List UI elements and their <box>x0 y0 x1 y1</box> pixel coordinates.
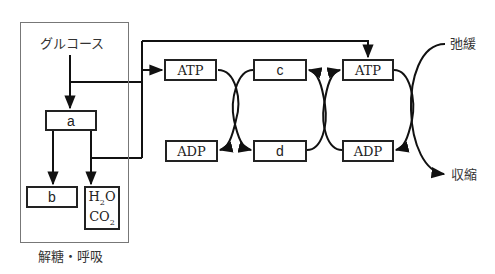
node-h2o-co2: H2O CO2 <box>84 186 120 230</box>
glucose-label: グルコース <box>40 37 104 50</box>
arrow-to-atp2 <box>142 41 368 57</box>
node-b: b <box>26 186 78 208</box>
node-adp-1: ADP <box>165 140 218 162</box>
node-a: a <box>45 110 97 131</box>
node-atp-1: ATP <box>164 59 217 81</box>
h2o-label: H2O <box>88 188 115 208</box>
curve-atp1-to-adp1 <box>218 70 238 150</box>
curve-relax-to-contract <box>411 44 445 174</box>
node-adp-2: ADP <box>342 140 394 162</box>
glycolysis-respiration-label: 解糖・呼吸 <box>38 250 103 263</box>
relax-label: 弛緩 <box>450 37 476 50</box>
contract-label: 収縮 <box>451 168 477 181</box>
node-c: c <box>253 59 307 81</box>
node-d: d <box>253 140 307 162</box>
node-atp-2: ATP <box>342 59 394 81</box>
co2-label: CO2 <box>89 208 115 228</box>
curve-c-to-d <box>233 70 253 150</box>
